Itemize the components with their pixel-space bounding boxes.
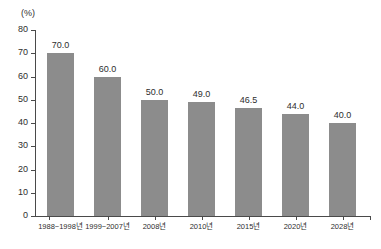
bar: 60.0 — [94, 77, 121, 217]
x-axis-category-label: 2028년 — [331, 220, 355, 231]
bar-value-label: 49.0 — [193, 89, 211, 99]
y-axis-tick-label: 50 — [18, 94, 28, 104]
y-axis-tick: 80 — [31, 30, 35, 31]
y-axis-tick-label: 30 — [18, 140, 28, 150]
bar: 44.0 — [282, 114, 309, 216]
x-axis-category-label: 2008년 — [143, 220, 167, 231]
bar-value-label: 46.5 — [240, 95, 258, 105]
y-axis-tick: 70 — [31, 53, 35, 54]
x-axis-category-label: 1999~2007년 — [85, 220, 130, 231]
bar: 50.0 — [141, 100, 168, 216]
bar: 40.0 — [329, 123, 356, 216]
bar-chart: (%) 80706050403020100 70.060.050.049.046… — [0, 0, 381, 249]
y-axis-line — [35, 30, 36, 216]
bar-value-label: 44.0 — [287, 101, 305, 111]
y-axis-tick-label: 70 — [18, 47, 28, 57]
x-axis-category-label: 2010년 — [190, 220, 214, 231]
bar-value-label: 40.0 — [334, 110, 352, 120]
x-axis-category-label: 2015년 — [237, 220, 261, 231]
x-axis-line — [35, 216, 371, 217]
y-axis-tick: 30 — [31, 146, 35, 147]
y-axis-tick: 50 — [31, 100, 35, 101]
bar: 46.5 — [235, 108, 262, 216]
y-axis-unit-label: (%) — [21, 8, 35, 18]
y-axis-tick: 0 — [31, 216, 35, 217]
bar-value-label: 50.0 — [146, 87, 164, 97]
y-axis-tick-label: 40 — [18, 117, 28, 127]
y-axis-tick: 60 — [31, 77, 35, 78]
y-axis-tick-label: 0 — [23, 210, 28, 220]
y-axis-tick-label: 10 — [18, 187, 28, 197]
x-axis-category-label: 2020년 — [284, 220, 308, 231]
bar-value-label: 60.0 — [99, 64, 117, 74]
bar-value-label: 70.0 — [52, 40, 70, 50]
bar: 49.0 — [188, 102, 215, 216]
bar: 70.0 — [47, 53, 74, 216]
y-axis-tick: 40 — [31, 123, 35, 124]
y-axis-tick-label: 80 — [18, 24, 28, 34]
y-axis-tick: 10 — [31, 193, 35, 194]
y-axis-tick-label: 60 — [18, 71, 28, 81]
y-axis-tick-label: 20 — [18, 164, 28, 174]
x-axis-tick — [370, 216, 371, 220]
x-axis-category-label: 1988~1998년 — [38, 220, 83, 231]
y-axis-tick: 20 — [31, 170, 35, 171]
plot-area: 80706050403020100 70.060.050.049.046.544… — [35, 30, 371, 216]
